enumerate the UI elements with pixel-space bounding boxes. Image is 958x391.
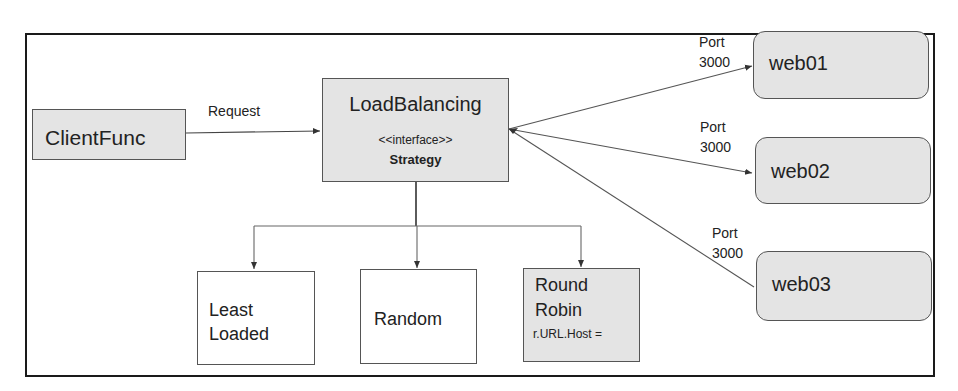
server-web02[interactable]: web02 <box>755 137 931 204</box>
strategy-label-line2: Loaded <box>209 322 269 346</box>
port-value: 3000 <box>712 243 743 263</box>
strategy-random[interactable]: Random <box>360 269 477 364</box>
strategy-label: Strategy <box>323 152 508 167</box>
server-web01[interactable]: web01 <box>753 31 929 99</box>
port-label-line: Port <box>712 223 743 243</box>
strategy-label-line1: Round <box>535 273 588 297</box>
server-label: web03 <box>772 273 831 296</box>
load-balancing-title: LoadBalancing <box>323 93 508 116</box>
port-label-web01: Port 3000 <box>699 32 730 72</box>
server-label: web01 <box>769 52 828 75</box>
strategy-least-loaded[interactable]: Least Loaded <box>197 271 315 365</box>
port-value: 3000 <box>700 137 731 157</box>
strategy-round-robin[interactable]: Round Robin r.URL.Host = <box>523 268 640 362</box>
strategy-label: Random <box>374 307 442 331</box>
interface-stereotype: <<interface>> <box>323 133 508 147</box>
server-web03[interactable]: web03 <box>756 251 932 321</box>
port-label-web03: Port 3000 <box>712 223 743 263</box>
port-label-web02: Port 3000 <box>700 117 731 157</box>
round-robin-code: r.URL.Host = <box>533 327 602 341</box>
load-balancing-box[interactable]: LoadBalancing <<interface>> Strategy <box>322 78 509 182</box>
port-value: 3000 <box>699 52 730 72</box>
strategy-label-line1: Least <box>209 298 253 322</box>
client-func-box[interactable]: ClientFunc <box>32 109 186 160</box>
server-label: web02 <box>771 160 830 183</box>
strategy-label-line2: Robin <box>535 298 582 322</box>
client-func-label: ClientFunc <box>45 126 145 150</box>
request-edge-label: Request <box>208 103 260 119</box>
port-label-line: Port <box>700 117 731 137</box>
port-label-line: Port <box>699 32 730 52</box>
